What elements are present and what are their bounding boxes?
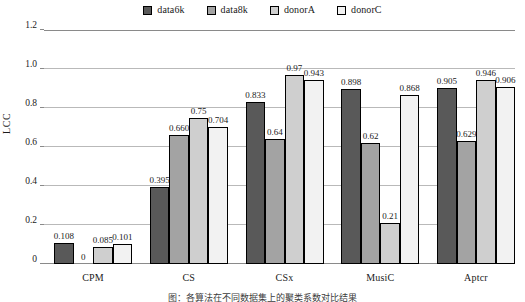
bar-slot[interactable]: 0.704	[208, 31, 228, 264]
bar[interactable]	[476, 80, 496, 264]
bar[interactable]	[285, 75, 305, 264]
y-axis-tick-label: 0.2	[25, 216, 44, 226]
bar-value-label: 0.62	[363, 132, 379, 141]
legend-item[interactable]: data8k	[207, 5, 248, 15]
legend-item-label: donorC	[351, 5, 382, 15]
bar-group: 0.10800.0850.101CPM	[54, 31, 132, 264]
bar-value-label: 0.75	[191, 107, 207, 116]
bar-value-label: 0	[81, 253, 86, 262]
bar[interactable]	[265, 139, 285, 264]
bar-slot[interactable]: 0.898	[341, 31, 361, 264]
figure-caption: 图：各算法在不同数据集上的聚类系数对比结果	[0, 292, 525, 302]
x-axis-category-label: CPM	[82, 273, 104, 283]
x-axis-category-label: Aptcr	[464, 273, 488, 283]
y-axis-tick-label: 0	[32, 255, 44, 265]
bar[interactable]	[169, 135, 189, 264]
bar-slot[interactable]: 0.62	[361, 31, 381, 264]
bar[interactable]	[400, 95, 420, 264]
bar-slot[interactable]: 0.943	[304, 31, 324, 264]
x-axis-category-label: MusiC	[366, 273, 394, 283]
bar[interactable]	[54, 243, 74, 264]
bar-slot[interactable]: 0.395	[150, 31, 170, 264]
x-axis-category-label: CS	[182, 273, 195, 283]
bar[interactable]	[246, 102, 266, 264]
bar-value-label: 0.108	[54, 232, 74, 241]
bar-group: 0.8330.640.970.943CSx	[246, 31, 324, 264]
legend-swatch-icon	[270, 6, 279, 15]
bar-value-label: 0.905	[437, 77, 457, 86]
y-axis-tick-label: 0.8	[25, 99, 44, 109]
legend-item-label: data6k	[157, 5, 184, 15]
legend-item-label: data8k	[221, 5, 248, 15]
bar-slot[interactable]: 0.833	[246, 31, 266, 264]
legend-item[interactable]: donorA	[270, 5, 315, 15]
legend-item[interactable]: data6k	[143, 5, 184, 15]
y-axis-tick-label: 0.4	[25, 177, 44, 187]
plot-area: 00.20.40.60.81.01.2 0.10800.0850.101CPM0…	[44, 30, 515, 264]
bar[interactable]	[150, 187, 170, 264]
bar-group: 0.3950.6600.750.704CS	[150, 31, 228, 264]
bar-value-label: 0.946	[476, 69, 496, 78]
bar-slot[interactable]: 0.660	[169, 31, 189, 264]
bar-value-label: 0.906	[495, 76, 515, 85]
bar-value-label: 0.64	[267, 128, 283, 137]
bar-slot[interactable]: 0	[74, 31, 94, 264]
bar-value-label: 0.395	[149, 176, 169, 185]
bar-value-label: 0.660	[169, 124, 189, 133]
bar[interactable]	[113, 244, 133, 264]
bar-slot[interactable]: 0.97	[285, 31, 305, 264]
bar-value-label: 0.833	[245, 91, 265, 100]
bar-value-label: 0.97	[286, 64, 302, 73]
bar-slot[interactable]: 0.75	[189, 31, 209, 264]
bar[interactable]	[496, 87, 516, 264]
y-axis-label: LCC	[2, 113, 12, 134]
y-axis-tick-label: 1.2	[25, 21, 44, 31]
bar-value-label: 0.101	[112, 233, 132, 242]
legend-swatch-icon	[337, 6, 346, 15]
bar-groups: 0.10800.0850.101CPM0.3950.6600.750.704CS…	[44, 31, 515, 264]
bar-chart-figure: data6kdata8kdonorAdonorC LCC 00.20.40.60…	[0, 0, 525, 302]
bar-slot[interactable]: 0.905	[437, 31, 457, 264]
bar-slot[interactable]: 0.101	[113, 31, 133, 264]
bar[interactable]	[208, 127, 228, 264]
bar-slot[interactable]: 0.868	[400, 31, 420, 264]
bar-slot[interactable]: 0.629	[457, 31, 477, 264]
bar[interactable]	[304, 80, 324, 264]
legend-swatch-icon	[143, 6, 152, 15]
bar-value-label: 0.704	[208, 116, 228, 125]
bar-slot[interactable]: 0.21	[380, 31, 400, 264]
bar[interactable]	[93, 247, 113, 264]
bar-group: 0.9050.6290.9460.906Aptcr	[437, 31, 515, 264]
bar[interactable]	[341, 89, 361, 264]
chart-legend: data6kdata8kdonorAdonorC	[0, 2, 525, 18]
legend-item-label: donorA	[284, 5, 315, 15]
bar-slot[interactable]: 0.946	[476, 31, 496, 264]
bar[interactable]	[361, 143, 381, 264]
bar-slot[interactable]: 0.906	[496, 31, 516, 264]
bar[interactable]	[457, 141, 477, 264]
bar-slot[interactable]: 0.085	[93, 31, 113, 264]
bar-slot[interactable]: 0.64	[265, 31, 285, 264]
x-axis-category-label: CSx	[276, 273, 294, 283]
legend-item[interactable]: donorC	[337, 5, 382, 15]
bar-value-label: 0.898	[341, 78, 361, 87]
y-axis-tick-label: 0.6	[25, 138, 44, 148]
y-axis-tick-label: 1.0	[25, 60, 44, 70]
bar-slot[interactable]: 0.108	[54, 31, 74, 264]
bar-value-label: 0.21	[382, 212, 398, 221]
bar-value-label: 0.629	[456, 130, 476, 139]
bar-group: 0.8980.620.210.868MusiC	[341, 31, 419, 264]
bar[interactable]	[380, 223, 400, 264]
bar[interactable]	[189, 118, 209, 264]
bar-value-label: 0.085	[93, 236, 113, 245]
bar-value-label: 0.868	[399, 84, 419, 93]
bar-value-label: 0.943	[304, 69, 324, 78]
bar[interactable]	[437, 88, 457, 264]
legend-swatch-icon	[207, 6, 216, 15]
